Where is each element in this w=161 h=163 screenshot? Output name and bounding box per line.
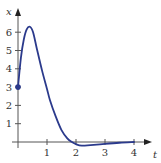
x-tick-label: 2 xyxy=(73,147,79,158)
y-tick-label: 5 xyxy=(6,45,12,56)
y-axis-label: x xyxy=(6,6,12,17)
x-tick-label: 3 xyxy=(102,147,108,158)
x-axis-label: t xyxy=(153,149,158,160)
data-curve xyxy=(18,27,134,146)
y-tick-label: 6 xyxy=(6,27,12,38)
y-tick-label: 1 xyxy=(6,118,12,129)
y-tick-label: 2 xyxy=(6,100,12,111)
x-tick-label: 1 xyxy=(44,147,50,158)
y-tick-label: 4 xyxy=(6,63,12,74)
y-tick-label: 3 xyxy=(6,82,12,93)
y-axis-arrow-icon xyxy=(15,8,21,16)
x-axis-arrow-icon xyxy=(144,139,152,145)
initial-point xyxy=(15,84,21,90)
chart: x t 1234 123456 xyxy=(0,0,161,163)
x-tick-label: 4 xyxy=(131,147,137,158)
